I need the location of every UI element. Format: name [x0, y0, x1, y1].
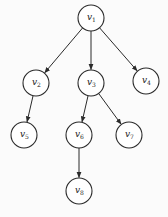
node-v4: v4 [133, 68, 159, 94]
edge-v1-v2 [45, 28, 83, 73]
node-v7: v7 [116, 122, 142, 148]
node-v3: v3 [78, 70, 104, 96]
edge-v3-v6 [82, 96, 88, 122]
node-v5: v5 [11, 122, 37, 148]
edge-v1-v4 [100, 28, 138, 71]
node-v8: v8 [66, 178, 92, 204]
node-v1: v1 [78, 5, 104, 31]
edge-layer [27, 28, 137, 178]
tree-canvas: v1v2v3v4v5v6v7v8 [0, 0, 168, 217]
node-layer: v1v2v3v4v5v6v7v8 [11, 5, 159, 204]
tree-diagram: v1v2v3v4v5v6v7v8 [0, 0, 168, 217]
node-v2: v2 [23, 70, 49, 96]
edge-v2-v5 [27, 96, 33, 122]
node-v6: v6 [66, 122, 92, 148]
edge-v3-v7 [99, 93, 121, 124]
